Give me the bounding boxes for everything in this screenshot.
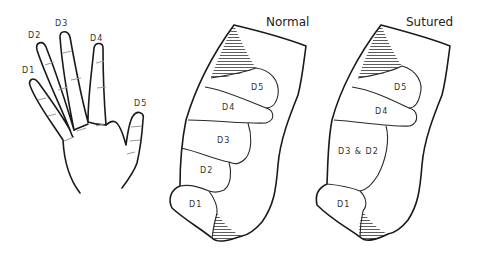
d2-d1-boundary — [180, 185, 209, 191]
hand-label-d4: D4 — [90, 34, 103, 43]
sutured-label-d4: D4 — [375, 107, 388, 116]
hand-label-d2: D2 — [28, 31, 41, 40]
finger-gap — [74, 124, 88, 130]
sutured-title: Sutured — [406, 15, 453, 29]
sutured-label-d1: D1 — [337, 200, 350, 209]
hand-label-d1: D1 — [22, 66, 35, 75]
hand-label-d5: D5 — [134, 99, 147, 108]
d3-d2-boundary — [181, 148, 229, 162]
normal-map: Normal D5 D4 D3 D2 D1 — [170, 15, 309, 241]
hatched-region-top — [358, 25, 402, 78]
d3-boundary — [229, 123, 251, 164]
hand-label-d3: D3 — [55, 19, 68, 28]
sutured-label-d5: D5 — [394, 83, 407, 92]
d32-boundary — [360, 126, 388, 191]
d32-d1-boundary — [327, 184, 360, 191]
normal-label-d4: D4 — [222, 103, 235, 112]
sutured-map: Sutured D5 D4 D3 & D2 D1 — [316, 15, 453, 240]
normal-label-d1: D1 — [189, 200, 202, 209]
diagram-canvas: D1 D2 D3 D4 D5 Normal D5 D4 D3 D2 D1 Sut… — [0, 0, 477, 255]
normal-label-d2: D2 — [200, 166, 213, 175]
normal-label-d5: D5 — [251, 83, 264, 92]
figure: D1 D2 D3 D4 D5 Normal D5 D4 D3 D2 D1 Sut… — [0, 0, 477, 255]
hand-outline — [30, 32, 144, 193]
hand-drawing: D1 D2 D3 D4 D5 — [22, 19, 147, 193]
hatched-region-bottom — [212, 213, 242, 240]
sutured-label-d3-d2: D3 & D2 — [338, 147, 379, 156]
finger-gap — [70, 130, 73, 137]
normal-label-d3: D3 — [217, 136, 230, 145]
normal-title: Normal — [266, 15, 309, 29]
